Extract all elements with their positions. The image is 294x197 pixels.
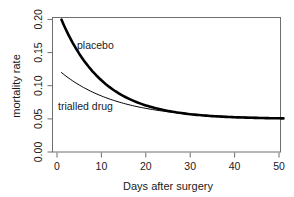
- x-tick-label-2: 20: [140, 160, 152, 172]
- x-tick-label-5: 50: [273, 160, 285, 172]
- x-tick-label-0: 0: [54, 160, 60, 172]
- y-axis-ticks: [48, 19, 53, 152]
- y-tick-label-0: 0.00: [32, 142, 44, 163]
- x-tick-label-1: 10: [96, 160, 108, 172]
- y-tick-label-2: 0.10: [32, 75, 44, 96]
- mortality-rate-line-chart: 0.00 0.05 0.10 0.15 0.20 0 10 20 30 40 5…: [0, 0, 294, 197]
- series-label-trialled-drug: trialled drug: [58, 100, 113, 112]
- x-axis-title: Days after surgery: [123, 180, 213, 192]
- y-axis-tick-labels: 0.00 0.05 0.10 0.15 0.20: [32, 9, 44, 162]
- x-tick-label-4: 40: [229, 160, 241, 172]
- y-tick-label-3: 0.15: [32, 42, 44, 63]
- y-tick-label-1: 0.05: [32, 109, 44, 130]
- x-tick-label-3: 30: [184, 160, 196, 172]
- x-axis-tick-labels: 0 10 20 30 40 50: [54, 160, 285, 172]
- series-label-placebo: placebo: [77, 39, 114, 51]
- x-axis-ticks: [57, 153, 279, 158]
- chart-figure: 0.00 0.05 0.10 0.15 0.20 0 10 20 30 40 5…: [0, 0, 294, 197]
- y-axis-title: mortality rate: [10, 54, 22, 118]
- plot-panel-border: [53, 18, 281, 153]
- y-tick-label-4: 0.20: [32, 9, 44, 30]
